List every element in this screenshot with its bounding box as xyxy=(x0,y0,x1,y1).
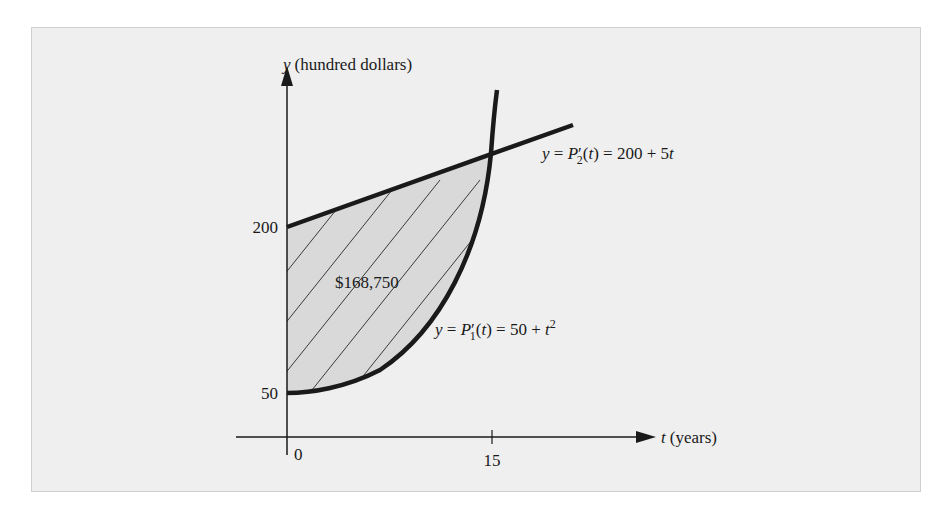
line-p2-label: y = P′2(t) = 200 + 5t xyxy=(540,144,675,167)
x-axis-arrow-icon xyxy=(636,431,656,443)
y-tick-200: 200 xyxy=(253,218,279,237)
x-tick-15-label: 15 xyxy=(484,451,501,470)
y-tick-50: 50 xyxy=(261,384,278,403)
x-tick-0-label: 0 xyxy=(294,445,303,464)
area-value-label: $168,750 xyxy=(335,273,399,292)
y-axis-label: y(hundred dollars) xyxy=(281,55,412,74)
chart: y(hundred dollars) t(years) 200 50 0 15 … xyxy=(0,0,952,514)
x-axis-label: t(years) xyxy=(661,428,717,447)
curve-p1-label: y = P′1(t) = 50 + t2 xyxy=(433,317,556,343)
